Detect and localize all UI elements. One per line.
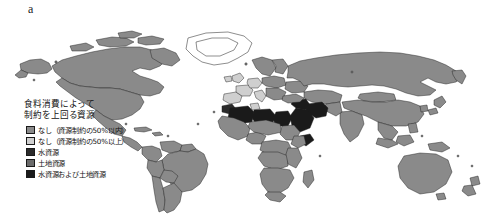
region-italy [254, 90, 266, 102]
legend-title: 食料消費によって 制約を上回る資源 [24, 99, 156, 121]
legend-item-none-within-50: なし（資源制約の50%以内） [24, 125, 156, 135]
legend-title-line-2: 制約を上回る資源 [24, 110, 156, 121]
island-dot-5 [319, 155, 321, 157]
region-japan [434, 96, 446, 108]
region-germany [247, 78, 262, 88]
region-new-zealand-north [470, 176, 480, 186]
region-indonesia-west [376, 138, 398, 148]
region-drc [258, 152, 288, 170]
region-madagascar [303, 170, 314, 188]
region-uk [232, 73, 244, 83]
legend-item-label: 水資源および土地資源 [38, 170, 106, 179]
region-mongolia [358, 92, 396, 102]
region-india [340, 111, 364, 142]
region-tunisia [250, 103, 260, 110]
region-ireland [224, 76, 232, 82]
island-dot-8 [471, 165, 473, 167]
region-korea [420, 105, 428, 112]
island-dot-4 [213, 111, 215, 113]
island-dot-9 [351, 71, 353, 73]
legend-item-label: 土地資源 [38, 159, 65, 168]
island-dot-3 [167, 135, 169, 137]
region-arctic-islands-2 [138, 36, 164, 45]
island-dot-11 [197, 123, 199, 125]
legend-item-label: なし（資源制約の50%以上） [38, 137, 128, 146]
region-borneo [396, 135, 414, 146]
legend-item-none-above-50: なし（資源制約の50%以上） [24, 136, 156, 146]
legend-item-water-and-land: 水資源および土地資源 [24, 169, 156, 179]
island-dot-7 [457, 155, 459, 157]
island-dot-10 [245, 63, 247, 65]
legend: 食料消費によって 制約を上回る資源 なし（資源制約の50%以内） なし（資源制約… [24, 99, 156, 180]
legend-items: なし（資源制約の50%以内） なし（資源制約の50%以上） 水資源 土地資源 水… [24, 125, 156, 179]
legend-swatch-icon [26, 148, 35, 156]
legend-title-line-1: 食料消費によって [24, 99, 156, 110]
legend-swatch-icon [26, 159, 35, 167]
region-poland-baltics [262, 76, 286, 88]
island-dot-1 [55, 61, 57, 63]
region-greenland-inner [196, 38, 238, 56]
region-chile [152, 176, 165, 212]
region-new-zealand-south [462, 185, 476, 196]
region-tasmania [436, 193, 446, 200]
region-australia [398, 153, 452, 194]
region-south-africa [265, 192, 286, 202]
region-east-africa [286, 148, 302, 168]
region-philippines [408, 123, 418, 133]
region-arctic-islands-4 [118, 31, 142, 38]
region-arctic-islands-1 [96, 37, 134, 47]
region-japan-south [428, 108, 438, 115]
legend-item-label: 水資源 [38, 148, 58, 157]
legend-swatch-icon [26, 137, 35, 145]
panel-label: a [28, 2, 34, 16]
figure-panel: a [0, 0, 498, 222]
region-papua-new-guinea [428, 142, 450, 152]
legend-item-label: なし（資源制約の50%以内） [38, 126, 128, 135]
legend-item-land: 土地資源 [24, 158, 156, 168]
legend-item-water: 水資源 [24, 147, 156, 157]
region-kazakhstan [304, 90, 342, 104]
island-dot-2 [33, 79, 35, 81]
legend-swatch-icon [26, 170, 35, 178]
region-arctic-islands-3 [70, 43, 94, 51]
region-greenland [186, 32, 252, 65]
island-dot-6 [421, 135, 423, 137]
region-southern-africa [260, 168, 294, 194]
region-ethiopia [291, 136, 306, 148]
region-russia [287, 52, 462, 96]
legend-swatch-icon [26, 126, 35, 134]
